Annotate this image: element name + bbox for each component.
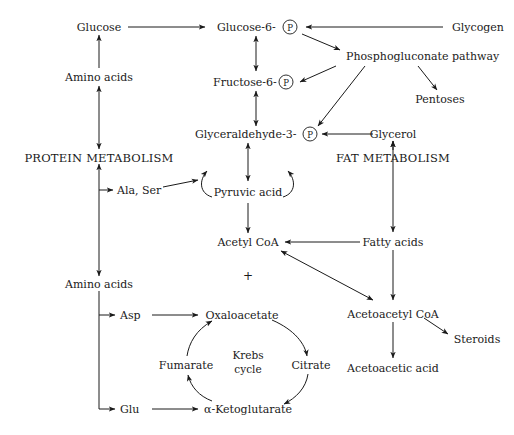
node-fat-metabolism: FAT METABOLISM: [336, 151, 450, 165]
node-ketoglutarate: α-Ketoglutarate: [204, 403, 292, 416]
node-plus-sign: +: [243, 269, 253, 283]
edge-ketoglutarate-to-fumarate: [188, 375, 212, 401]
edge-phosphogluconate-to-glyceraldehyde3p: [318, 66, 365, 126]
node-fatty-acids: Fatty acids: [363, 236, 424, 249]
edge-acetyl-coa-acetoacetyl-coa: [281, 251, 373, 300]
edge-pyruvic-right-arc: [283, 171, 293, 197]
phosphate-letter-fructose6p: P: [283, 78, 289, 88]
node-glyceraldehyde3p: Glyceraldehyde-3-: [195, 128, 297, 141]
edge-glucose6p-to-phosphogluconate: [302, 34, 340, 50]
edge-citrate-to-ketoglutarate: [284, 374, 308, 404]
node-glu: Glu: [120, 403, 139, 416]
node-ala-ser: Ala, Ser: [116, 184, 162, 197]
node-acetyl-coa: Acetyl CoA: [216, 236, 279, 249]
node-krebs-cycle-line1: Krebs: [232, 349, 263, 361]
node-krebs-cycle-line2: cycle: [234, 363, 261, 375]
node-fumarate: Fumarate: [159, 359, 213, 372]
node-citrate: Citrate: [291, 359, 330, 372]
edge-phosphogluconate-to-fructose6p: [300, 66, 336, 82]
node-fructose6p: Fructose-6-: [213, 76, 277, 89]
metabolism-diagram: Glucose Glucose-6- P Glycogen Phosphoglu…: [0, 0, 514, 435]
node-pentoses: Pentoses: [415, 93, 465, 106]
node-amino-acids-top: Amino acids: [64, 71, 133, 84]
edge-ala-ser-to-pyruvic-acid: [163, 180, 198, 187]
node-glucose: Glucose: [77, 21, 121, 34]
node-acetoacetyl-coa: Acetoacetyl CoA: [346, 308, 440, 321]
node-asp: Asp: [119, 309, 141, 322]
node-oxaloacetate: Oxaloacetate: [205, 309, 278, 322]
diagram-canvas: Glucose Glucose-6- P Glycogen Phosphoglu…: [0, 0, 514, 435]
phosphate-letter-glyceraldehyde3p: P: [307, 130, 313, 140]
node-glycogen: Glycogen: [452, 21, 504, 34]
phosphate-letter-glucose6p: P: [287, 23, 293, 33]
edge-fumarate-to-oxaloacetate: [187, 321, 212, 356]
node-protein-metabolism: PROTEIN METABOLISM: [24, 151, 173, 165]
edge-oxaloacetate-to-citrate: [272, 320, 307, 356]
edge-phosphogluconate-to-pentoses: [418, 66, 437, 90]
node-pyruvic-acid: Pyruvic acid: [214, 186, 283, 199]
node-steroids: Steroids: [454, 333, 501, 346]
node-glycerol: Glycerol: [370, 128, 417, 141]
node-glucose6p: Glucose-6-: [217, 21, 276, 34]
node-acetoacetic-acid: Acetoacetic acid: [346, 362, 439, 375]
node-amino-acids-bottom: Amino acids: [64, 278, 133, 291]
node-phosphogluconate-pathway: Phosphogluconate pathway: [346, 50, 500, 63]
edge-pyruvic-left-arc: [202, 171, 212, 197]
